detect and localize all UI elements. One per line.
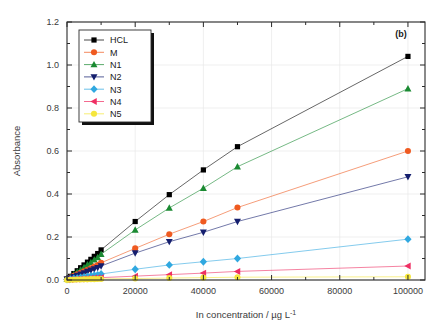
x-tick-label: 60000 — [259, 286, 284, 296]
chart-figure: 0.00.20.40.60.81.01.20200004000060000800… — [0, 0, 444, 320]
data-point-marker — [405, 54, 410, 59]
y-tick-label: 0.6 — [46, 146, 59, 156]
data-point-marker — [201, 167, 206, 172]
x-tick-label: 0 — [64, 286, 69, 296]
data-point-marker — [235, 144, 240, 149]
x-tick-label: 100000 — [393, 286, 423, 296]
legend-label-m: M — [110, 48, 118, 58]
y-tick-label: 1.0 — [46, 60, 59, 70]
legend-label-n3: N3 — [110, 85, 122, 95]
legend-label-n2: N2 — [110, 72, 122, 82]
data-point-marker — [234, 205, 240, 211]
y-tick-label: 0.8 — [46, 103, 59, 113]
y-tick-label: 0.4 — [46, 189, 59, 199]
panel-label: (b) — [395, 29, 407, 39]
x-axis-title: In concentration / µg L-1 — [196, 309, 297, 320]
y-tick-label: 0.0 — [46, 275, 59, 285]
legend-label-n5: N5 — [110, 109, 122, 119]
data-point-marker — [200, 218, 206, 224]
x-tick-label: 80000 — [327, 286, 352, 296]
data-point-marker — [91, 49, 97, 55]
legend-label-n1: N1 — [110, 60, 122, 70]
data-point-marker — [133, 219, 138, 224]
y-tick-label: 0.2 — [46, 232, 59, 242]
legend-label-hcl: HCL — [110, 35, 128, 45]
y-axis-title: Absorbance — [11, 126, 22, 177]
legend-label-n4: N4 — [110, 97, 122, 107]
x-tick-label: 20000 — [123, 286, 148, 296]
legend: HCLMN1N2N3N4N5 — [79, 30, 154, 125]
data-point-marker — [91, 37, 96, 42]
data-point-marker — [91, 111, 97, 117]
data-point-marker — [405, 148, 411, 154]
data-point-marker — [166, 231, 172, 237]
y-tick-label: 1.2 — [46, 17, 59, 27]
x-tick-label: 40000 — [191, 286, 216, 296]
absorbance-vs-concentration-chart: 0.00.20.40.60.81.01.20200004000060000800… — [0, 0, 444, 320]
data-point-marker — [167, 192, 172, 197]
